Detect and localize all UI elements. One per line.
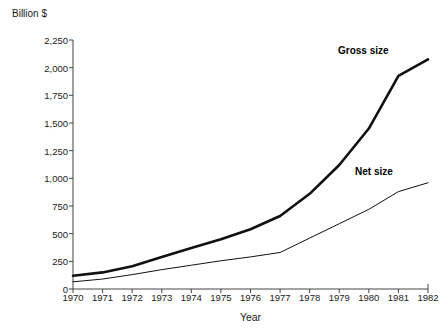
x-axis-tick-label: 1981 — [388, 292, 409, 303]
x-axis-tick-label: 1970 — [62, 292, 83, 303]
x-axis-tick-label: 1971 — [92, 292, 113, 303]
x-axis-tick-label: 1982 — [417, 292, 438, 303]
x-axis-tick-label: 1975 — [210, 292, 231, 303]
x-axis-tick-label: 1972 — [122, 292, 143, 303]
line-chart: Billion $ 02505007501,0001,2501,5001,750… — [0, 0, 443, 331]
x-axis-tick-label: 1978 — [299, 292, 320, 303]
x-axis-title: Year — [73, 311, 428, 323]
x-axis-tick-label: 1979 — [329, 292, 350, 303]
series-label-net-size: Net size — [355, 166, 393, 177]
series-label-gross-size: Gross size — [338, 45, 389, 56]
x-axis-tick-label: 1973 — [151, 292, 172, 303]
x-axis-tick-label: 1974 — [181, 292, 202, 303]
x-axis-tick-label: 1976 — [240, 292, 261, 303]
x-axis-tick-label: 1977 — [270, 292, 291, 303]
x-axis-tick-label: 1980 — [358, 292, 379, 303]
